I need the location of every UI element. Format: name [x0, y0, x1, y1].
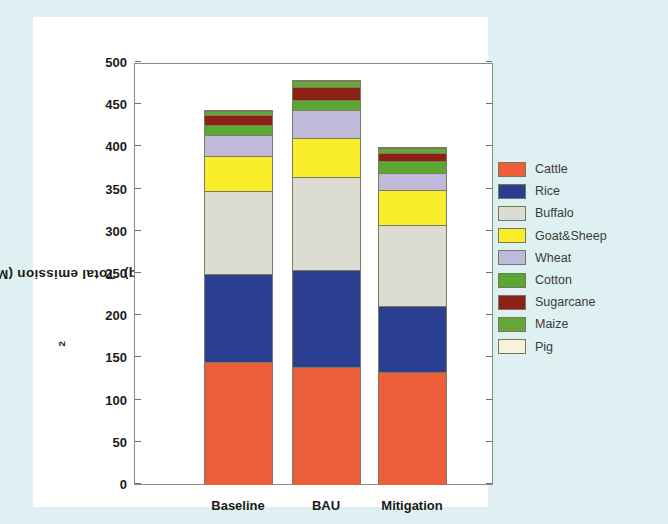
- bar-segment-wheat[interactable]: [204, 135, 273, 158]
- y-tick-label: 300: [105, 223, 127, 238]
- bar-segment-wheat[interactable]: [378, 173, 447, 192]
- legend-swatch: [498, 206, 526, 221]
- y-tick-mark-right: [486, 145, 492, 146]
- bar-segment-buffalo[interactable]: [378, 225, 447, 308]
- y-tick-label: 100: [105, 392, 127, 407]
- bar-baseline[interactable]: Baseline: [204, 110, 273, 484]
- legend-swatch: [498, 295, 526, 310]
- y-tick-label: 200: [105, 308, 127, 323]
- y-tick-mark: [135, 103, 141, 104]
- y-tick-mark-right: [486, 188, 492, 189]
- legend-swatch: [498, 184, 526, 199]
- y-tick-mark-right: [486, 103, 492, 104]
- legend-swatch: [498, 162, 526, 177]
- legend-label: Wheat: [535, 251, 571, 265]
- y-tick-mark-right: [486, 356, 492, 357]
- y-axis-title-subscript: 2: [57, 340, 68, 346]
- bar-segment-buffalo[interactable]: [204, 191, 273, 275]
- bar-segment-wheat[interactable]: [292, 110, 361, 139]
- y-tick-label: 400: [105, 139, 127, 154]
- legend-item-sugarcane[interactable]: Sugarcane: [498, 291, 648, 313]
- bar-segment-buffalo[interactable]: [292, 177, 361, 271]
- y-axis-title-text: Total emission (MtCO2eq): [36, 202, 81, 346]
- y-tick-mark-right: [486, 441, 492, 442]
- legend-item-rice[interactable]: Rice: [498, 180, 648, 202]
- bar-segment-goat-sheep[interactable]: [204, 156, 273, 191]
- y-tick-mark-right: [486, 230, 492, 231]
- legend-label: Sugarcane: [535, 295, 595, 309]
- legend-item-pig[interactable]: Pig: [498, 336, 648, 358]
- legend-item-buffalo[interactable]: Buffalo: [498, 202, 648, 224]
- y-tick-mark: [135, 188, 141, 189]
- legend-label: Cattle: [535, 162, 568, 176]
- y-axis-title: Total emission (MtCO2eq): [47, 63, 69, 485]
- y-tick-mark-right: [486, 61, 492, 62]
- y-tick-mark: [135, 399, 141, 400]
- y-tick-mark: [135, 145, 141, 146]
- legend-item-wheat[interactable]: Wheat: [498, 247, 648, 269]
- bar-segment-cattle[interactable]: [378, 372, 447, 485]
- bar-segment-goat-sheep[interactable]: [292, 138, 361, 179]
- y-tick-label: 350: [105, 181, 127, 196]
- figure-card: Total emission (MtCO2eq) 050100150200250…: [33, 17, 488, 507]
- bar-segment-rice[interactable]: [204, 274, 273, 363]
- legend-item-cotton[interactable]: Cotton: [498, 269, 648, 291]
- legend-label: Cotton: [535, 273, 572, 287]
- bar-segment-cattle[interactable]: [292, 367, 361, 485]
- legend-swatch: [498, 317, 526, 332]
- bar-segment-cattle[interactable]: [204, 362, 273, 485]
- y-tick-mark: [135, 356, 141, 357]
- y-tick-label: 500: [105, 55, 127, 70]
- bar-segment-rice[interactable]: [378, 306, 447, 373]
- legend-item-goat-sheep[interactable]: Goat&Sheep: [498, 225, 648, 247]
- y-tick-label: 450: [105, 97, 127, 112]
- y-tick-label: 0: [120, 477, 127, 492]
- y-tick-mark-right: [486, 399, 492, 400]
- legend-swatch: [498, 339, 526, 354]
- legend: CattleRiceBuffaloGoat&SheepWheatCottonSu…: [498, 158, 648, 358]
- y-tick-mark: [135, 483, 141, 484]
- legend-label: Rice: [535, 184, 560, 198]
- bar-segment-rice[interactable]: [292, 270, 361, 368]
- y-tick-label: 150: [105, 350, 127, 365]
- y-tick-mark-right: [486, 272, 492, 273]
- x-axis-label-mitigation: Mitigation: [381, 498, 442, 513]
- x-axis-label-bau: BAU: [312, 498, 340, 513]
- y-tick-mark-right: [486, 483, 492, 484]
- legend-label: Goat&Sheep: [535, 229, 607, 243]
- legend-item-cattle[interactable]: Cattle: [498, 158, 648, 180]
- bar-mitigation[interactable]: Mitigation: [378, 147, 447, 484]
- bar-bau[interactable]: BAU: [292, 80, 361, 484]
- legend-label: Pig: [535, 340, 553, 354]
- legend-item-maize[interactable]: Maize: [498, 313, 648, 335]
- legend-label: Maize: [535, 317, 568, 331]
- y-tick-label: 50: [113, 434, 127, 449]
- y-tick-mark: [135, 61, 141, 62]
- y-tick-mark: [135, 272, 141, 273]
- legend-swatch: [498, 273, 526, 288]
- y-tick-label: 250: [105, 266, 127, 281]
- y-tick-mark: [135, 230, 141, 231]
- y-tick-mark-right: [486, 314, 492, 315]
- plot-area: 050100150200250300350400450500 BaselineB…: [134, 63, 493, 485]
- legend-label: Buffalo: [535, 206, 574, 220]
- legend-swatch: [498, 250, 526, 265]
- x-axis-label-baseline: Baseline: [211, 498, 264, 513]
- y-tick-mark: [135, 441, 141, 442]
- y-tick-mark: [135, 314, 141, 315]
- bar-segment-sugarcane[interactable]: [292, 87, 361, 101]
- bar-segment-goat-sheep[interactable]: [378, 190, 447, 225]
- legend-swatch: [498, 228, 526, 243]
